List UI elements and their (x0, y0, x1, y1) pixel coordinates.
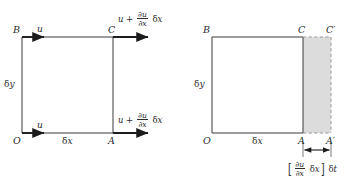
deformation-fraction: ∂u ∂x (294, 161, 305, 178)
dimension-label-delta-y: δy (4, 80, 15, 89)
expr-denominator-top: ∂x (137, 18, 147, 27)
point-label-B: B (203, 25, 210, 35)
bracket-right: ] (321, 164, 325, 175)
dimension-label-delta-x: δx (62, 137, 73, 146)
point-label-A: A (298, 136, 305, 146)
deformation-denominator: ∂x (295, 168, 305, 177)
deformation-bracket-group: [ ∂u ∂x δ x ] (287, 161, 325, 178)
dimension-label-delta-y: δy (194, 80, 205, 89)
point-label-A-prime: A′ (326, 136, 335, 146)
deformation-inner-var: x (315, 165, 320, 174)
point-label-O: O (203, 136, 211, 146)
bracket-left: [ (288, 164, 292, 175)
expr-multiplier-var-bottom: x (158, 116, 163, 125)
point-label-C: C (298, 25, 305, 35)
velocity-expression-top: u + ∂u ∂x δ x (118, 11, 162, 28)
element-rectangle (212, 37, 303, 133)
expr-operator-bottom: + (126, 116, 133, 125)
expr-multiplier-var-top: x (158, 15, 163, 24)
dimension-label-delta-x: δx (252, 137, 263, 146)
element-rectangle (22, 37, 113, 133)
deformation-expression: [ ∂u ∂x δ x ] δ t (287, 161, 337, 178)
point-label-O: O (13, 136, 21, 146)
deformation-numerator: ∂u (294, 161, 305, 169)
expr-fraction-top: ∂u ∂x (137, 11, 148, 28)
figure-linear-deformation: B C O A δy δx u u u + ∂u ∂x δ x u + ∂u (0, 0, 349, 179)
point-label-C: C (108, 25, 115, 35)
expr-base-top: u (118, 15, 123, 24)
point-label-B: B (13, 25, 20, 35)
expr-numerator-top: ∂u (137, 11, 148, 19)
deformation-time-var: t (334, 165, 337, 174)
expr-base-bottom: u (118, 116, 123, 125)
velocity-label-u-bottom: u (37, 121, 43, 130)
inflow-velocity-arrows (22, 37, 44, 133)
velocity-expression-bottom: u + ∂u ∂x δ x (118, 112, 162, 129)
right-diagram-panel: B C C′ O A A′ δy δx [ ∂u ∂x δ x ] δ t (175, 0, 349, 179)
expr-denominator-bottom: ∂x (137, 119, 147, 128)
expr-numerator-bottom: ∂u (137, 112, 148, 120)
point-label-A: A (108, 136, 115, 146)
left-diagram-panel: B C O A δy δx u u u + ∂u ∂x δ x u + ∂u (0, 0, 175, 179)
velocity-label-u-top: u (37, 25, 43, 34)
point-label-C-prime: C′ (326, 25, 335, 35)
expr-operator-top: + (126, 15, 133, 24)
expr-fraction-bottom: ∂u ∂x (137, 112, 148, 129)
deformation-shaded-region (303, 37, 331, 133)
right-diagram-graphics (175, 0, 349, 179)
